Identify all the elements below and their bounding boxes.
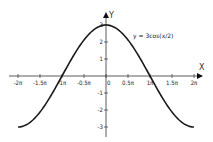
y-tick-label: 2 <box>100 38 103 45</box>
y-tick-label: -3 <box>98 123 103 130</box>
x-axis-label: X <box>199 63 205 72</box>
x-tick-label: -0.5π <box>77 79 92 86</box>
y-tick-label: -2 <box>98 106 103 113</box>
y-ticks: 321-1-2-3 <box>98 21 108 130</box>
x-axis-arrow-icon <box>197 73 203 79</box>
y-tick-label: -1 <box>98 89 103 96</box>
x-tick-label: 0.5π <box>122 79 135 86</box>
x-tick-label: -1.5π <box>33 79 48 86</box>
x-tick-label: 0 <box>107 79 111 86</box>
y-axis-label: Y <box>108 11 114 20</box>
x-tick-label: -2π <box>14 79 23 86</box>
equation-label: y = 3cos(x/2) <box>133 32 173 40</box>
y-tick-label: 1 <box>100 55 103 62</box>
x-tick-label: 1.5π <box>166 79 179 86</box>
x-tick-label: 2π <box>191 79 198 86</box>
cosine-graph: X Y -2π-1.5π-1π-0.5π00.5π1π1.5π2π 321-1-… <box>0 0 213 142</box>
